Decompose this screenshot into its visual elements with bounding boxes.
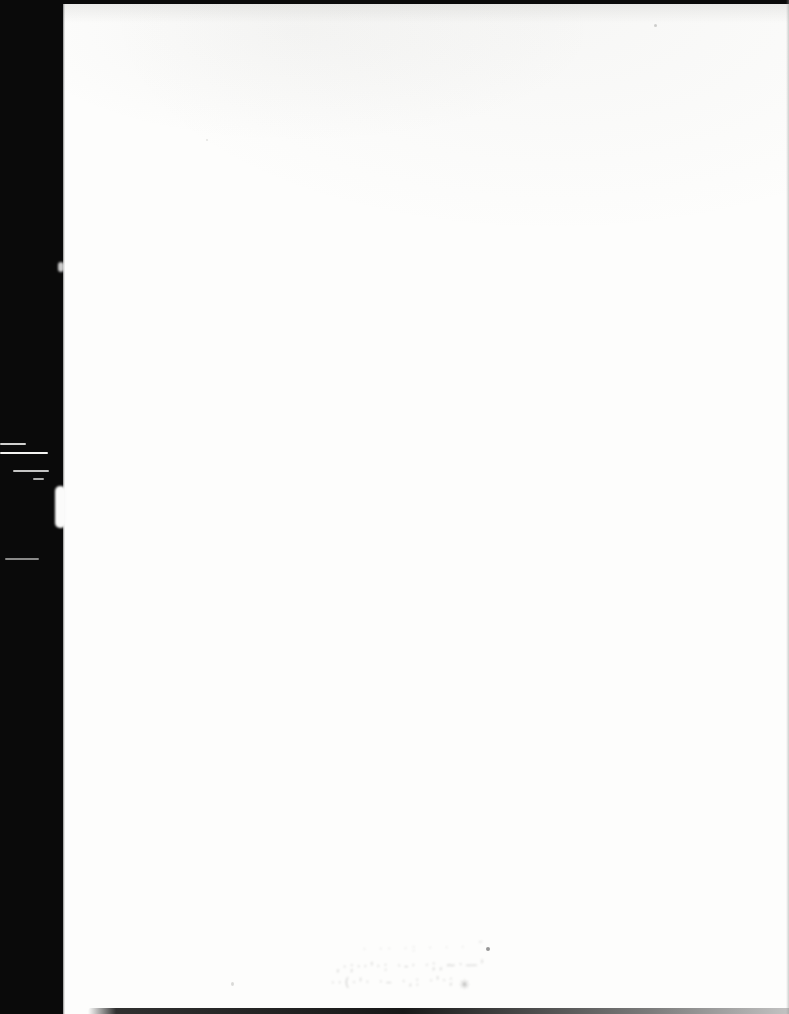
- paper-speck: [654, 24, 657, 27]
- paper-shading: [0, 0, 789, 1014]
- ink-showthrough-line: ··(·'· ·– ·,: ·'·;: [331, 974, 456, 991]
- scanned-page: · ·· ·: · · · ˝ ,·;··'·: ·-· ·;,~·—' ··(…: [0, 0, 789, 1014]
- scratch-line: [5, 558, 39, 560]
- ink-showthrough-mark: ✳: [459, 977, 470, 992]
- scratch-line: [0, 443, 26, 445]
- top-black-strip: [0, 0, 789, 4]
- top-edge-shading: [0, 3, 789, 23]
- scratch-line: [0, 452, 48, 454]
- scratch-line: [13, 470, 49, 472]
- bottom-black-strip: [88, 1008, 789, 1014]
- paper-speck: [231, 982, 234, 986]
- left-band-white-notch: [55, 486, 66, 528]
- paper-speck: [206, 139, 208, 141]
- left-scanner-band: [0, 0, 63, 1014]
- left-band-white-notch: [58, 262, 64, 272]
- ink-showthrough-dot: [486, 947, 490, 951]
- scratch-line: [33, 478, 44, 480]
